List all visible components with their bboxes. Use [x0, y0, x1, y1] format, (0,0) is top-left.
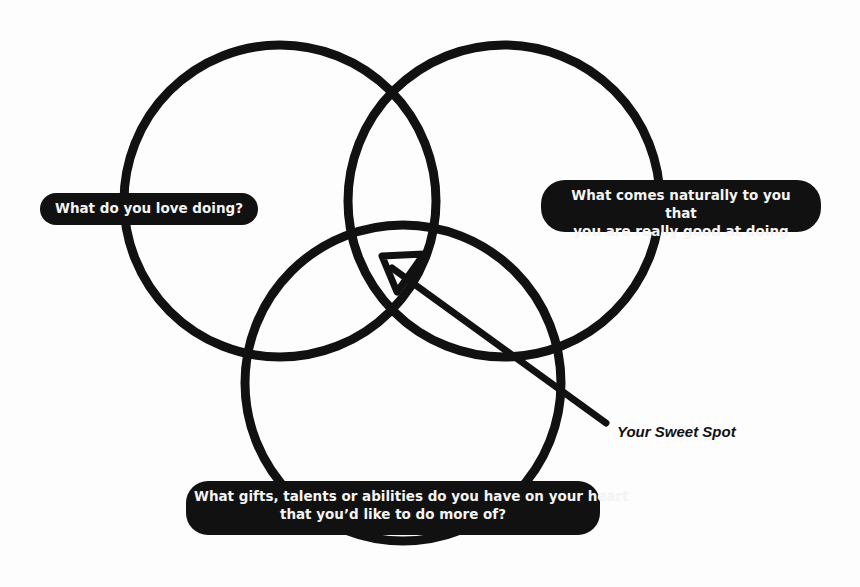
sweet-spot-label: Your Sweet Spot	[617, 423, 736, 440]
label-natural-line1: What comes naturally to you that	[555, 186, 807, 222]
label-gifts-line2: that you’d like to do more of?	[194, 505, 592, 523]
label-gifts-line1: What gifts, talents or abilities do you …	[194, 487, 592, 505]
label-natural: What comes naturally to you that you are…	[541, 180, 821, 232]
label-natural-line2: you are really good at doing	[555, 222, 807, 240]
label-love: What do you love doing?	[40, 193, 258, 225]
label-gifts: What gifts, talents or abilities do you …	[186, 481, 600, 535]
label-love-text: What do you love doing?	[55, 200, 243, 216]
